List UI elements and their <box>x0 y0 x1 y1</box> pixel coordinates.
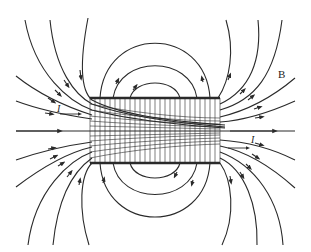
field-lines-figure <box>0 0 311 252</box>
current-label-right: I <box>251 134 254 145</box>
field-lines <box>16 18 295 245</box>
field-label-b: B <box>278 68 285 80</box>
current-label-left: I <box>57 103 60 114</box>
solenoid-diagram: I I B <box>0 0 311 252</box>
